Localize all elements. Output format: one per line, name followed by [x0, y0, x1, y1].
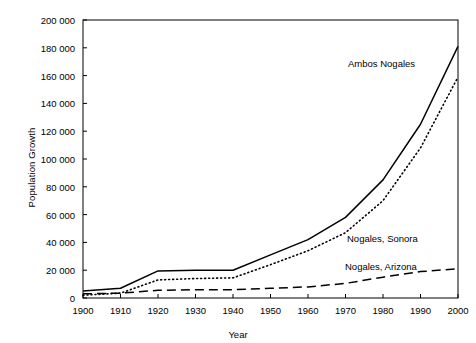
series-nogales-arizona	[83, 269, 458, 294]
data-series-lines	[83, 46, 458, 295]
plot-area	[0, 0, 476, 343]
axes-frame	[83, 20, 458, 298]
chart-figure: Population Growth Year 020 00040 00060 0…	[0, 0, 476, 343]
axis-tick-marks	[83, 20, 458, 298]
series-nogales-sonora	[83, 77, 458, 295]
series-ambos-nogales	[83, 46, 458, 291]
